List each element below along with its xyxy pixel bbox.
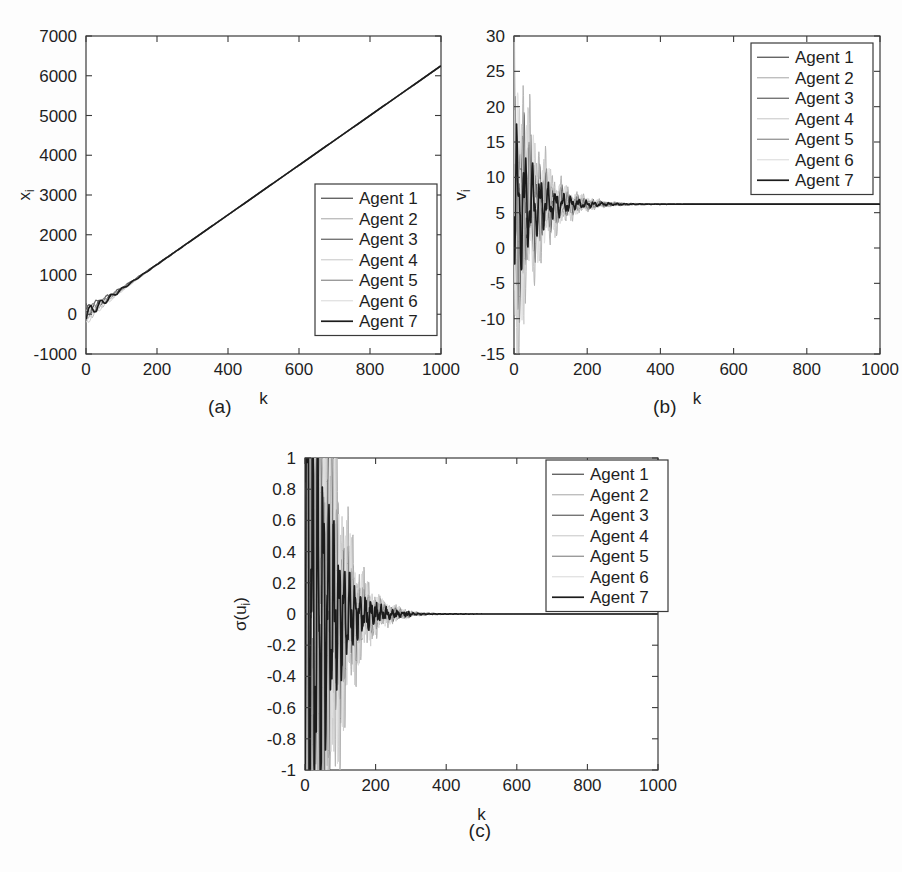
- y-axis-title: σ(ui): [231, 597, 253, 631]
- y-tick-label: 0: [68, 305, 77, 324]
- y-tick-label: -1: [281, 761, 296, 780]
- x-tick-label: 1000: [861, 360, 899, 379]
- y-tick-label: -5: [490, 274, 505, 293]
- y-tick-label: 30: [486, 27, 505, 46]
- x-tick-label: 0: [81, 360, 90, 379]
- x-tick-label: 200: [573, 360, 601, 379]
- subplot-a: 02004006008001000-1000010002000300040005…: [0, 0, 460, 380]
- x-tick-label: 0: [300, 776, 309, 795]
- legend-label-2: Agent 2: [795, 69, 854, 88]
- legend-label-6: Agent 6: [795, 151, 854, 170]
- y-tick-label: 0: [496, 239, 505, 258]
- legend-label-7: Agent 7: [795, 171, 854, 190]
- legend-label-5: Agent 5: [795, 130, 854, 149]
- legend-label-7: Agent 7: [359, 312, 418, 331]
- x-tick-label: 800: [356, 360, 384, 379]
- y-tick-label: 4000: [39, 146, 77, 165]
- y-tick-label: 20: [486, 98, 505, 117]
- legend-label-1: Agent 1: [359, 189, 418, 208]
- y-tick-label: 25: [486, 62, 505, 81]
- x-tick-label: 0: [509, 360, 518, 379]
- legend-label-3: Agent 3: [795, 89, 854, 108]
- y-tick-label: 5: [496, 204, 505, 223]
- y-tick-label: 6000: [39, 67, 77, 86]
- x-tick-label: 1000: [639, 776, 677, 795]
- legend-label-6: Agent 6: [590, 568, 649, 587]
- x-tick-label: 200: [361, 776, 389, 795]
- figure-canvas: 02004006008001000-1000010002000300040005…: [0, 0, 902, 872]
- y-tick-label: 5000: [39, 107, 77, 126]
- y-tick-label: 0.2: [272, 574, 296, 593]
- chart-a-svg: 02004006008001000-1000010002000300040005…: [0, 0, 460, 380]
- y-tick-label: 1000: [39, 266, 77, 285]
- y-tick-label: -0.8: [267, 730, 296, 749]
- legend-label-2: Agent 2: [359, 210, 418, 229]
- y-tick-label: -1000: [34, 345, 77, 364]
- subplot-c: 02004006008001000-1-0.8-0.6-0.4-0.200.20…: [220, 440, 690, 830]
- y-tick-label: 0.6: [272, 511, 296, 530]
- legend-label-6: Agent 6: [359, 292, 418, 311]
- subplot-b: 02004006008001000-15-10-5051015202530kvi…: [450, 0, 902, 380]
- x-tick-label: 200: [143, 360, 171, 379]
- y-tick-label: -10: [480, 310, 505, 329]
- legend-label-4: Agent 4: [590, 527, 649, 546]
- caption-b: (b): [620, 396, 710, 418]
- x-tick-label: 400: [214, 360, 242, 379]
- legend-label-2: Agent 2: [590, 486, 649, 505]
- x-tick-label: 400: [432, 776, 460, 795]
- y-tick-label: 0: [287, 605, 296, 624]
- y-tick-label: 15: [486, 133, 505, 152]
- y-axis-title: xi: [15, 189, 37, 200]
- legend-label-1: Agent 1: [590, 465, 649, 484]
- legend-label-4: Agent 4: [359, 251, 418, 270]
- legend-label-3: Agent 3: [590, 506, 649, 525]
- legend-label-5: Agent 5: [590, 547, 649, 566]
- y-tick-label: 10: [486, 168, 505, 187]
- legend-label-4: Agent 4: [795, 110, 854, 129]
- caption-c: (c): [435, 820, 525, 842]
- x-tick-label: 400: [646, 360, 674, 379]
- y-tick-label: 0.4: [272, 543, 296, 562]
- legend-label-5: Agent 5: [359, 271, 418, 290]
- legend-label-1: Agent 1: [795, 48, 854, 67]
- x-tick-label: 600: [285, 360, 313, 379]
- y-tick-label: 0.8: [272, 480, 296, 499]
- y-tick-label: 7000: [39, 27, 77, 46]
- y-axis-title: vi: [451, 189, 473, 200]
- x-tick-label: 600: [719, 360, 747, 379]
- y-tick-label: -15: [480, 345, 505, 364]
- y-tick-label: -0.4: [267, 667, 296, 686]
- legend-label-3: Agent 3: [359, 230, 418, 249]
- caption-a: (a): [175, 396, 265, 418]
- y-tick-label: 3000: [39, 186, 77, 205]
- y-tick-label: -0.2: [267, 636, 296, 655]
- x-tick-label: 800: [573, 776, 601, 795]
- y-tick-label: 2000: [39, 226, 77, 245]
- legend-label-7: Agent 7: [590, 588, 649, 607]
- chart-b-svg: 02004006008001000-15-10-5051015202530kvi…: [450, 0, 902, 380]
- y-tick-label: -0.6: [267, 699, 296, 718]
- y-tick-label: 1: [287, 449, 296, 468]
- x-tick-label: 800: [793, 360, 821, 379]
- chart-c-svg: 02004006008001000-1-0.8-0.6-0.4-0.200.20…: [220, 440, 690, 830]
- x-tick-label: 600: [503, 776, 531, 795]
